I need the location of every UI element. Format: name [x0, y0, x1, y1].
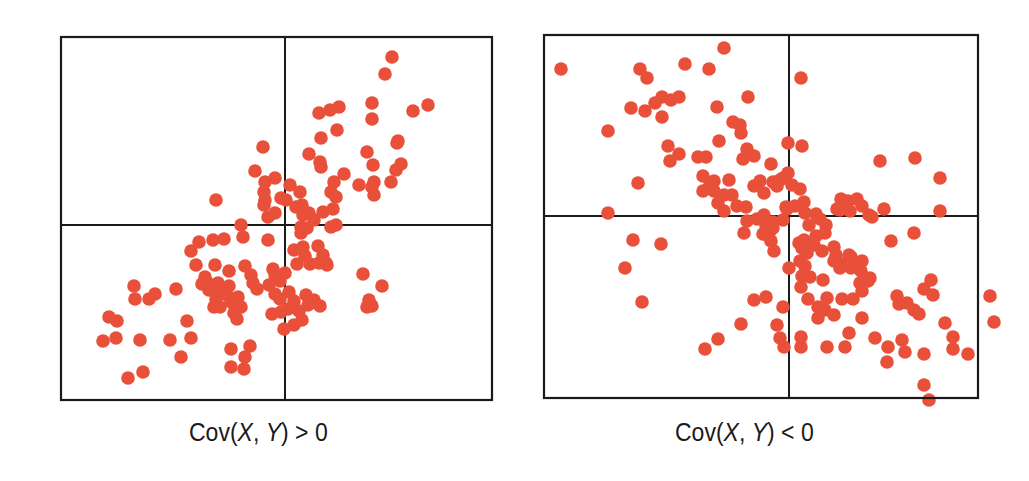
data-point	[734, 126, 748, 140]
data-point	[820, 291, 834, 305]
caption-sep: ,	[739, 418, 752, 446]
data-point	[222, 264, 236, 278]
data-point	[795, 139, 809, 153]
data-point	[702, 62, 716, 76]
data-point	[320, 258, 334, 272]
data-point	[737, 226, 751, 240]
data-point	[917, 347, 931, 361]
data-point	[793, 182, 807, 196]
data-point	[206, 233, 220, 247]
scatter-plot-area	[61, 37, 492, 400]
data-point	[794, 330, 808, 344]
data-point	[601, 206, 615, 220]
data-point	[635, 295, 649, 309]
data-point	[912, 307, 926, 321]
data-point	[268, 206, 282, 220]
data-point	[767, 244, 781, 258]
data-point	[926, 288, 940, 302]
data-point	[238, 350, 252, 364]
data-point	[189, 258, 203, 272]
data-point	[421, 98, 435, 112]
data-point	[287, 243, 301, 257]
data-point	[302, 147, 316, 161]
data-point	[250, 282, 264, 296]
caption-prefix: Cov(	[675, 418, 724, 446]
caption-prefix: Cov(	[189, 418, 238, 446]
data-point	[842, 326, 856, 340]
data-point	[759, 290, 773, 304]
data-point	[352, 178, 366, 192]
data-point	[699, 150, 713, 164]
data-point	[717, 204, 731, 218]
data-point	[324, 220, 338, 234]
data-point	[261, 233, 275, 247]
caption-var-y: Y	[266, 418, 281, 446]
data-point	[672, 90, 686, 104]
data-point	[917, 378, 931, 392]
data-point	[209, 193, 223, 207]
data-point	[987, 315, 1001, 329]
data-point	[180, 314, 194, 328]
data-point	[256, 140, 270, 154]
data-point	[793, 254, 807, 268]
data-point	[908, 151, 922, 165]
data-point	[924, 273, 938, 287]
data-point	[329, 190, 343, 204]
data-point	[877, 202, 891, 216]
data-point	[794, 280, 808, 294]
data-point	[406, 104, 420, 118]
data-point	[734, 317, 748, 331]
data-point	[367, 188, 381, 202]
data-point	[121, 371, 135, 385]
plot-positive-covariance	[61, 37, 492, 400]
data-point	[781, 136, 795, 150]
data-point	[907, 226, 921, 240]
data-point	[554, 62, 568, 76]
data-point	[278, 266, 292, 280]
data-point	[231, 290, 245, 304]
data-point	[938, 316, 952, 330]
data-point	[933, 204, 947, 218]
data-point	[330, 123, 344, 137]
caption-suffix: ) < 0	[767, 418, 814, 446]
data-point	[747, 149, 761, 163]
data-point	[816, 273, 830, 287]
data-point	[654, 237, 668, 251]
data-point	[207, 300, 221, 314]
data-point	[133, 333, 147, 347]
data-point	[933, 171, 947, 185]
data-point	[710, 100, 724, 114]
data-point	[96, 334, 110, 348]
data-point	[717, 41, 731, 55]
data-point	[314, 160, 328, 174]
data-point	[337, 167, 351, 181]
caption-suffix: ) > 0	[281, 418, 328, 446]
data-point	[811, 311, 825, 325]
caption-var-y: Y	[752, 418, 767, 446]
data-point	[366, 158, 380, 172]
data-point	[820, 340, 834, 354]
data-point	[224, 360, 238, 374]
data-point	[375, 279, 389, 293]
data-point	[794, 71, 808, 85]
data-point	[314, 131, 328, 145]
data-point	[127, 279, 141, 293]
data-point	[678, 57, 692, 71]
data-point	[868, 331, 882, 345]
data-point	[378, 67, 392, 81]
data-point	[776, 300, 790, 314]
data-point	[136, 365, 150, 379]
data-point	[884, 234, 898, 248]
data-point	[290, 257, 304, 271]
data-point	[618, 261, 632, 275]
data-point	[208, 258, 222, 272]
data-point	[773, 331, 787, 345]
data-point	[174, 350, 188, 364]
caption-negative-covariance: Cov(X, Y) < 0	[675, 418, 814, 447]
data-point	[365, 96, 379, 110]
data-point	[195, 277, 209, 291]
data-point	[854, 264, 868, 278]
data-point	[356, 267, 370, 281]
data-point	[332, 100, 346, 114]
data-point	[961, 347, 975, 361]
